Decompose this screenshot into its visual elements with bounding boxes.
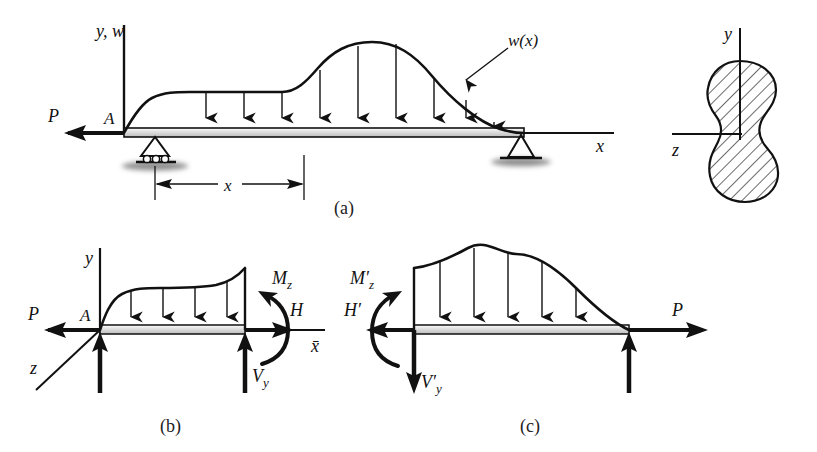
panel-c-shear-Vy-prime [406,330,422,394]
panel-b-z-axis-label: z [29,358,37,378]
panel-b-moment-Mz-label: Mz [271,268,292,292]
panel-a-beam [124,128,524,137]
figure-container: y, w x w(x) [0,0,817,452]
panel-b-force-H-label: H [289,300,304,320]
panel-c-reaction-right [621,332,637,393]
cross-section-y-axis-label: y [722,24,732,44]
panel-b-shear-Vy [237,332,253,393]
panel-b-x-axis-label: x̄ [310,336,319,356]
panel-c: H′ M′z V′y [343,245,708,437]
panel-b-force-P-label: P [27,304,39,324]
panel-a-load-leader [466,48,508,80]
panel-c-load-arrows [440,248,576,317]
panel-c-load-curve [414,245,629,330]
cross-section-z-axis-label: z [671,140,679,160]
panel-a: y, w x w(x) [47,21,614,219]
panel-b-y-axis-label: y [83,248,93,268]
panel-b-z-axis [36,330,100,390]
panel-c-moment-Mz-prime-label: M′z [349,268,374,292]
panel-b-point-A-label: A [79,306,91,325]
svg-text:V′y: V′y [421,372,442,396]
panel-a-dimension-x: x [155,155,304,200]
panel-b-reaction-left [92,332,108,393]
svg-text:M′z: M′z [349,268,374,292]
engineering-diagram: y, w x w(x) [0,0,817,452]
panel-b-shear-Vy-label: Vy [252,366,269,390]
panel-a-y-axis-label: y, w [94,21,124,41]
panel-c-force-P [629,322,708,338]
svg-text:x̄: x̄ [310,336,319,356]
panel-b: y z x̄ [27,248,325,437]
cross-section: y z [671,24,778,202]
panel-a-load-label: w(x) [508,31,539,50]
panel-a-point-A-label: A [103,109,115,128]
panel-b-load-curve [100,268,245,330]
panel-c-beam [414,325,629,334]
panel-c-force-P-label: P [671,300,683,320]
panel-c-caption: (c) [520,416,540,437]
panel-a-load-arrows [206,44,494,126]
panel-b-force-P [44,322,100,338]
panel-a-x-axis-label: x [595,136,604,156]
panel-a-roller-support [122,137,188,171]
panel-a-pin-support [491,135,551,166]
panel-a-caption: (a) [334,198,354,219]
panel-a-force-P [64,125,124,141]
svg-text:Vy: Vy [252,366,269,390]
panel-a-force-P-label: P [47,106,59,126]
panel-c-force-H-prime-label: H′ [343,300,362,320]
panel-c-shear-Vy-prime-label: V′y [421,372,442,396]
cross-section-shape [707,61,778,202]
panel-a-dimension-label: x [223,176,232,195]
panel-b-caption: (b) [160,416,181,437]
svg-text:Mz: Mz [271,268,292,292]
panel-a-load-curve [124,42,524,133]
panel-b-beam [100,325,245,334]
